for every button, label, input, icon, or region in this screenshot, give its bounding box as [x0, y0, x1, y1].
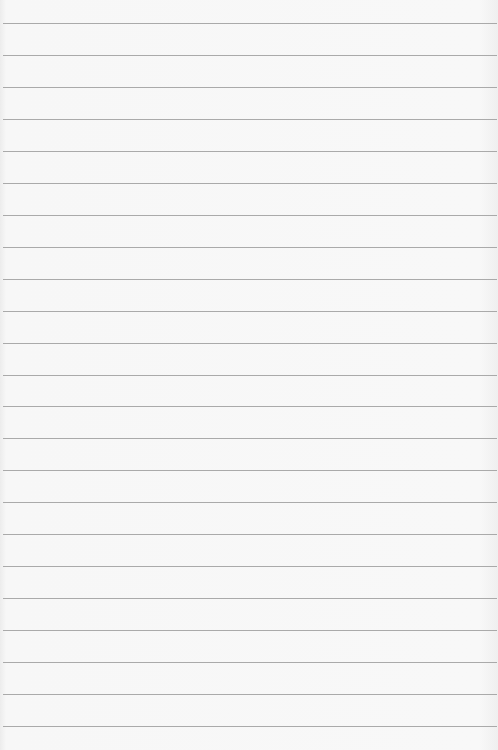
ruled-line [3, 598, 497, 599]
ruled-paper [0, 0, 498, 750]
ruled-line [3, 215, 497, 216]
ruled-line [3, 375, 497, 376]
ruled-line [3, 566, 497, 567]
ruled-line [3, 726, 497, 727]
ruled-line [3, 470, 497, 471]
ruled-line [3, 630, 497, 631]
ruled-line [3, 119, 497, 120]
ruled-line [3, 279, 497, 280]
ruled-line [3, 343, 497, 344]
ruled-line [3, 23, 497, 24]
ruled-line [3, 87, 497, 88]
ruled-line [3, 534, 497, 535]
ruled-line [3, 183, 497, 184]
ruled-line [3, 151, 497, 152]
ruled-line [3, 502, 497, 503]
ruled-line [3, 311, 497, 312]
ruled-line [3, 406, 497, 407]
ruled-line [3, 247, 497, 248]
ruled-line [3, 662, 497, 663]
ruled-line [3, 438, 497, 439]
ruled-line [3, 55, 497, 56]
ruled-line [3, 694, 497, 695]
